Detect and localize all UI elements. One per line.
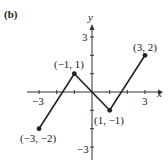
x-tick-label-min: −3 <box>32 95 44 107</box>
point-label: (−1, 1) <box>54 58 84 71</box>
data-point <box>72 71 77 76</box>
point-label: (1, −1) <box>94 114 124 127</box>
x-axis-label: x <box>156 87 162 99</box>
data-point <box>37 126 42 131</box>
y-tick-label-max: 3 <box>82 31 88 43</box>
y-axis-label: y <box>87 11 93 23</box>
graph: (b) x y −3 3 3 −3 (−3, −2) (−1, 1) (1, −… <box>0 0 168 167</box>
point-label: (3, 2) <box>133 41 157 54</box>
data-point <box>143 53 148 58</box>
data-point <box>107 108 112 113</box>
point-label: (−3, −2) <box>20 132 57 145</box>
x-tick-label-max: 3 <box>142 95 148 107</box>
panel-label: (b) <box>4 8 18 21</box>
y-tick-label-min: −3 <box>77 143 89 155</box>
y-axis-arrow-icon <box>90 24 95 30</box>
